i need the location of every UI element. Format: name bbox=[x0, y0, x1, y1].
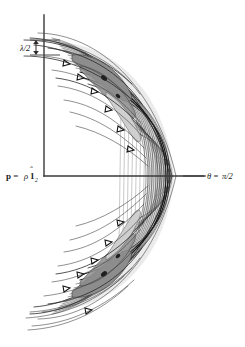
lambda-arrow-down bbox=[33, 51, 39, 55]
theta-symbol: θ bbox=[207, 171, 211, 181]
figure-container: λ/2 p = ρ 1 ˆ 2 θ = π/2 bbox=[0, 0, 245, 347]
left-axis-rho: ρ bbox=[23, 171, 28, 181]
arc-streamline-bundle bbox=[24, 33, 176, 330]
left-axis-label: p = ρ 1 ˆ 2 bbox=[6, 165, 38, 183]
theta-value: π/2 bbox=[222, 171, 234, 181]
figure-svg: λ/2 p = ρ 1 ˆ 2 θ = π/2 bbox=[0, 0, 245, 347]
left-axis-subscript: 2 bbox=[35, 177, 38, 183]
lambda-half-label: λ/2 bbox=[19, 43, 31, 53]
right-axis-label: θ = π/2 bbox=[207, 171, 234, 181]
theta-equals: = bbox=[213, 171, 219, 181]
left-axis-p: p = bbox=[6, 171, 18, 181]
